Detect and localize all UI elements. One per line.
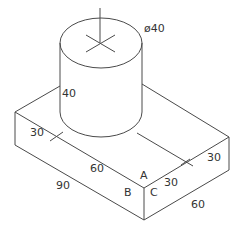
cylinder-bottom-arc (60, 112, 142, 137)
label-point-c: C (150, 186, 158, 199)
label-point-a: A (140, 169, 148, 182)
label-front-90: 90 (56, 179, 70, 192)
right-centerline (137, 133, 193, 166)
isometric-drawing: ø40 40 30 60 90 30 30 60 A B C (0, 0, 239, 226)
label-right-60: 60 (191, 198, 205, 211)
label-cyl-height: 40 (62, 87, 76, 100)
box-top-front-left-edge (15, 112, 144, 188)
label-top-60: 60 (90, 162, 104, 175)
label-left-offset: 30 (30, 126, 44, 139)
box-bottom-left-edge (15, 145, 144, 220)
label-front-30: 30 (164, 176, 178, 189)
box-top-back-right-edge (142, 84, 229, 137)
label-point-b: B (124, 186, 132, 199)
label-right-30: 30 (207, 151, 221, 164)
label-diameter: ø40 (144, 22, 165, 35)
cylinder (60, 8, 142, 137)
box-top-left-edge (15, 86, 60, 112)
